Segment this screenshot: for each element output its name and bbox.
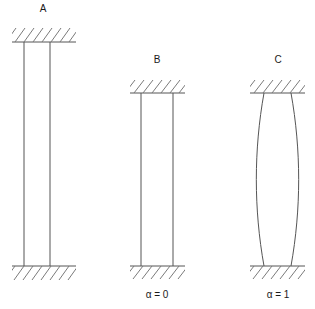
column-C	[217, 80, 315, 279]
hatch-stroke	[152, 80, 162, 93]
hatch-stroke	[78, 28, 88, 42]
hatch-stroke	[226, 266, 236, 279]
hatch-stroke	[41, 266, 51, 280]
hatch-stroke	[33, 28, 43, 42]
hatch-stroke	[0, 266, 6, 280]
hatch-stroke	[42, 28, 52, 42]
hatch-stroke	[5, 266, 15, 280]
hatch-group-C-top	[227, 80, 315, 93]
alpha-label-C: α = 1	[267, 289, 290, 300]
hatch-stroke	[115, 266, 125, 279]
hatch-stroke	[169, 266, 179, 279]
hatch-stroke	[227, 80, 237, 93]
hatch-stroke	[107, 80, 117, 93]
hatch-stroke	[299, 80, 309, 93]
hatch-stroke	[14, 266, 24, 280]
hatch-group-B-bottom	[97, 266, 197, 279]
hatch-stroke	[170, 80, 180, 93]
hatch-stroke	[244, 266, 254, 279]
hatch-stroke	[87, 28, 97, 42]
hatch-stroke	[271, 266, 281, 279]
hatch-group-A-top	[0, 28, 97, 42]
support-A-bottom	[0, 266, 87, 280]
hatch-stroke	[245, 80, 255, 93]
hatch-group-A-bottom	[0, 266, 87, 280]
hatch-stroke	[0, 28, 7, 42]
hatch-stroke	[262, 266, 272, 279]
hatch-stroke	[50, 266, 60, 280]
hatch-stroke	[15, 28, 25, 42]
column-B	[97, 80, 207, 279]
column-C-right-edge	[291, 93, 299, 266]
hatch-stroke	[298, 266, 308, 279]
hatch-stroke	[272, 80, 282, 93]
hatch-stroke	[290, 80, 300, 93]
hatch-stroke	[143, 80, 153, 93]
column-A	[0, 28, 97, 280]
hatch-stroke	[77, 266, 87, 280]
column-label-B: B	[154, 54, 161, 65]
hatch-stroke	[23, 266, 33, 280]
hatch-group-B-top	[107, 80, 207, 93]
support-C-top	[227, 80, 315, 93]
hatch-stroke	[68, 266, 78, 280]
hatch-stroke	[24, 28, 34, 42]
support-A-top	[0, 28, 97, 42]
hatch-stroke	[281, 80, 291, 93]
columns-group	[0, 28, 315, 280]
support-C-bottom	[217, 266, 315, 279]
hatch-stroke	[308, 80, 315, 93]
hatch-stroke	[197, 80, 207, 93]
hatch-stroke	[236, 80, 246, 93]
hatch-stroke	[6, 28, 16, 42]
hatch-stroke	[124, 266, 134, 279]
hatch-stroke	[254, 80, 264, 93]
labels-group: ABα = 0Cα = 1	[40, 3, 290, 300]
alpha-label-B: α = 0	[146, 289, 169, 300]
hatch-stroke	[116, 80, 126, 93]
hatch-stroke	[161, 80, 171, 93]
hatch-stroke	[160, 266, 170, 279]
hatch-stroke	[187, 266, 197, 279]
hatch-stroke	[235, 266, 245, 279]
column-buckling-figure: ABα = 0Cα = 1	[0, 0, 315, 309]
hatch-stroke	[106, 266, 116, 279]
hatch-stroke	[151, 266, 161, 279]
hatch-stroke	[142, 266, 152, 279]
hatch-stroke	[51, 28, 61, 42]
hatch-stroke	[217, 266, 227, 279]
support-B-top	[107, 80, 207, 93]
hatch-stroke	[253, 266, 263, 279]
hatch-stroke	[125, 80, 135, 93]
hatch-stroke	[60, 28, 70, 42]
column-label-C: C	[274, 54, 281, 65]
hatch-group-C-bottom	[217, 266, 315, 279]
hatch-stroke	[178, 266, 188, 279]
hatch-stroke	[59, 266, 69, 280]
hatch-stroke	[134, 80, 144, 93]
figure-canvas: ABα = 0Cα = 1	[0, 0, 315, 309]
hatch-stroke	[263, 80, 273, 93]
column-C-left-edge	[256, 93, 264, 266]
hatch-stroke	[280, 266, 290, 279]
hatch-stroke	[69, 28, 79, 42]
hatch-stroke	[133, 266, 143, 279]
hatch-stroke	[188, 80, 198, 93]
hatch-stroke	[97, 266, 107, 279]
column-label-A: A	[40, 3, 47, 14]
hatch-stroke	[307, 266, 315, 279]
hatch-stroke	[179, 80, 189, 93]
hatch-stroke	[32, 266, 42, 280]
support-B-bottom	[97, 266, 197, 279]
hatch-stroke	[289, 266, 299, 279]
